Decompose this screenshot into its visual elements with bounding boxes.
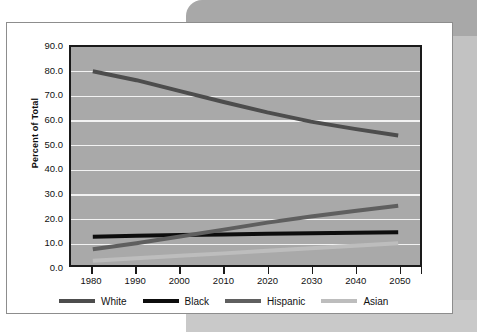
legend-item-hispanic[interactable]: Hispanic [225, 296, 305, 307]
x-axis-tick-label: 2000 [156, 275, 202, 286]
x-axis-tick-label: 1980 [68, 275, 114, 286]
legend-swatch-hispanic [225, 299, 261, 303]
line-chart: Percent of Total 0.010.020.030.040.050.0… [7, 23, 454, 315]
x-axis-tick-label: 2050 [377, 275, 423, 286]
x-axis-tick [356, 267, 358, 274]
y-axis-tick-label: 80.0 [15, 64, 63, 75]
x-axis-tick [223, 267, 225, 274]
x-axis-tick-labels: 19801990200020102020203020402050 [69, 275, 422, 289]
legend-label: Asian [363, 296, 388, 307]
legend-item-white[interactable]: White [59, 296, 127, 307]
series-line-hispanic [93, 206, 398, 250]
series-line-white [93, 71, 398, 135]
series-lines [71, 47, 420, 265]
x-axis-tick [268, 267, 270, 274]
legend-item-asian[interactable]: Asian [321, 296, 388, 307]
x-axis-ticks [69, 267, 422, 274]
x-axis-tick [179, 267, 181, 274]
y-axis-tick-label: 0.0 [15, 262, 63, 273]
legend-swatch-black [143, 299, 179, 303]
x-axis-tick [312, 267, 314, 274]
legend-label: Hispanic [267, 296, 305, 307]
plot-area [69, 45, 422, 267]
x-axis-tick [400, 267, 402, 274]
x-axis-tick-label: 1990 [112, 275, 158, 286]
y-axis-tick-label: 20.0 [15, 212, 63, 223]
x-axis-tick-label: 2020 [245, 275, 291, 286]
chart-legend: WhiteBlackHispanicAsian [59, 293, 409, 309]
y-axis-tick-labels: 0.010.020.030.040.050.060.070.080.090.0 [15, 45, 63, 267]
legend-label: White [101, 296, 127, 307]
legend-swatch-white [59, 299, 95, 303]
x-axis-tick [91, 267, 93, 274]
legend-label: Black [185, 296, 209, 307]
series-line-asian [93, 243, 398, 260]
x-axis-tick-label: 2010 [200, 275, 246, 286]
y-axis-tick-label: 90.0 [15, 40, 63, 51]
x-axis-tick-label: 2040 [333, 275, 379, 286]
legend-swatch-asian [321, 299, 357, 303]
legend-item-black[interactable]: Black [143, 296, 209, 307]
x-axis-tick [135, 267, 137, 274]
x-axis-tick-label: 2030 [289, 275, 335, 286]
y-axis-tick-label: 70.0 [15, 89, 63, 100]
figure-card: Percent of Total 0.010.020.030.040.050.0… [6, 22, 453, 314]
y-axis-tick-label: 40.0 [15, 163, 63, 174]
y-axis-tick-label: 10.0 [15, 237, 63, 248]
y-axis-tick-label: 50.0 [15, 138, 63, 149]
x-axis-tick [421, 267, 423, 274]
series-line-black [93, 232, 398, 236]
y-axis-tick-label: 60.0 [15, 114, 63, 125]
y-axis-tick-label: 30.0 [15, 188, 63, 199]
